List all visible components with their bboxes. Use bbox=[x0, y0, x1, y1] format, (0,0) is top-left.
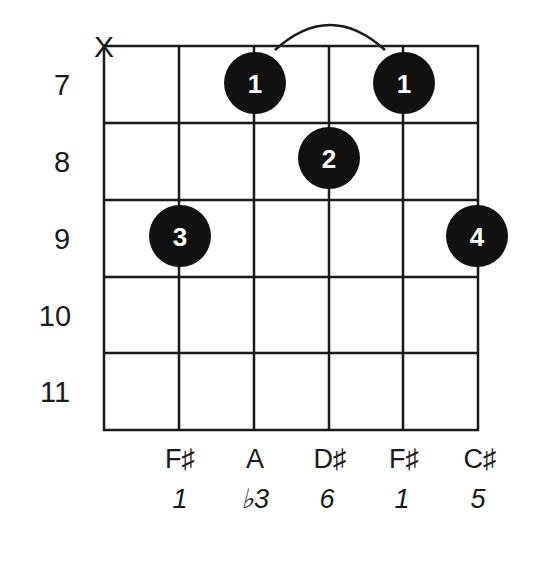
finger-number: 4 bbox=[470, 222, 485, 252]
finger-number: 2 bbox=[322, 144, 336, 174]
interval-label: 1 bbox=[172, 484, 187, 514]
muted-string-marker: X bbox=[94, 30, 114, 63]
finger-dot: 3 bbox=[149, 205, 211, 267]
note-name: C♯ bbox=[464, 444, 497, 474]
note-name: A bbox=[246, 444, 264, 474]
finger-number: 1 bbox=[248, 69, 262, 99]
finger-dot: 1 bbox=[373, 52, 435, 114]
chord-diagram: X 7 8 9 10 11 1 1 2 3 4 F♯ A D♯ F♯ C♯ 1 … bbox=[0, 0, 535, 562]
interval-label: 5 bbox=[470, 484, 486, 514]
fret-number: 10 bbox=[39, 300, 71, 332]
note-name: F♯ bbox=[165, 444, 195, 474]
fret-number: 11 bbox=[40, 376, 70, 408]
note-name: D♯ bbox=[314, 444, 347, 474]
fret-number: 9 bbox=[54, 223, 70, 255]
finger-number: 3 bbox=[173, 222, 187, 252]
fret-number: 8 bbox=[54, 146, 70, 178]
interval-label: 1 bbox=[394, 484, 409, 514]
fret-number: 7 bbox=[54, 69, 70, 101]
finger-dot: 1 bbox=[224, 52, 286, 114]
note-name: F♯ bbox=[389, 444, 419, 474]
interval-label: ♭3 bbox=[241, 484, 269, 514]
interval-label: 6 bbox=[319, 484, 335, 514]
finger-dot: 4 bbox=[446, 205, 508, 267]
finger-dot: 2 bbox=[298, 127, 360, 189]
finger-number: 1 bbox=[397, 69, 411, 99]
